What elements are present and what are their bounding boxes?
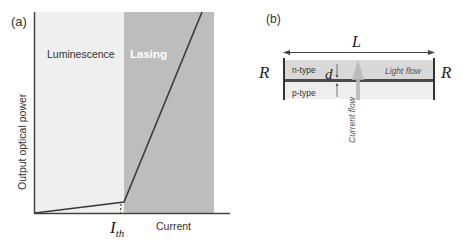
mirror-right-label: R	[440, 63, 452, 82]
thickness-label: d	[325, 66, 333, 82]
lasing-label: Lasing	[130, 48, 167, 60]
length-label: L	[351, 33, 361, 50]
y-axis-label: Output optical power	[16, 93, 28, 190]
x-axis-label: Current	[156, 220, 191, 232]
mirror-left-label: R	[258, 63, 270, 82]
threshold-label: Ith	[109, 218, 125, 239]
length-arrow-right-head	[428, 50, 435, 55]
length-arrow-left-head	[283, 50, 290, 55]
lasing-region	[124, 12, 214, 213]
n-type-label: n-type	[292, 65, 316, 75]
figure: (a) Luminescence Lasing Output optical p…	[0, 0, 463, 246]
current-flow-label: Current flow	[347, 96, 357, 143]
panel-a-label: (a)	[11, 14, 27, 29]
p-type-label: p-type	[292, 88, 316, 98]
luminescence-label: Luminescence	[47, 48, 115, 60]
luminescence-region	[35, 12, 124, 213]
panel-b-label: (b)	[266, 12, 281, 26]
panel-a: (a) Luminescence Lasing Output optical p…	[11, 12, 230, 239]
light-flow-label: Light flow	[385, 66, 422, 76]
panel-b: (b) L R R n-type p-type d Current flow L…	[258, 12, 452, 143]
